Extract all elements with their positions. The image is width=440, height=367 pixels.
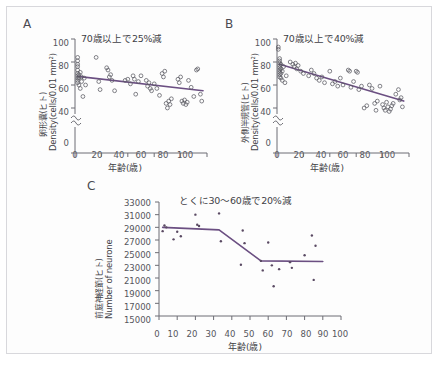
panel-c: C 前庭神経節(ヒト) Number of neurone とくに30〜60歳で… [65,179,395,351]
panel-c-xtick-6: 60 [260,329,276,339]
panel-c-xtick-0: 0 [150,329,164,339]
panel-c-ytick-1: 31000 [111,211,151,221]
panel-a-ytick-3: 40 [41,107,69,117]
panel-c-ylabel-jp: 前庭神経節(ヒト) [93,259,104,319]
panel-c-xtick-7: 70 [279,329,295,339]
panel-c-ytick-4: 25000 [111,250,151,260]
panel-c-xtick-2: 20 [184,329,200,339]
panel-c-plot [155,199,345,324]
panel-a-ytick-2: 60 [41,84,69,94]
panel-c-xtick-4: 40 [222,329,238,339]
panel-c-xtick-3: 30 [203,329,219,339]
panel-c-xlabel: 年齢(歳) [205,340,285,353]
panel-a-letter: A [23,17,31,31]
panel-b-plot [273,39,413,159]
panel-c-xtick-1: 10 [165,329,181,339]
panel-b-ytick-2: 60 [243,84,271,94]
panel-c-ytick-5: 23000 [111,263,151,273]
panel-a-ytick-4: 0 [41,138,69,148]
panel-b: B 外側半規管(ヒト) Density(cells/0.01 mm²) 70歳以… [219,15,417,175]
panel-b-letter: B [225,17,233,31]
panel-c-ytick-9: 15000 [111,315,151,325]
panel-a-ytick-0: 100 [41,38,69,48]
panel-b-ytick-3: 40 [243,107,271,117]
panel-c-ytick-3: 27000 [111,237,151,247]
panel-c-ytick-2: 29000 [111,224,151,234]
panel-b-ytick-1: 80 [243,61,271,71]
figure-frame: A 卵形嚢(ヒト) Density(cells/0.01 mm²) 70歳以上で… [6,6,432,354]
panel-a-ytick-1: 80 [41,61,69,71]
panel-c-xtick-9: 90 [315,329,331,339]
panel-c-ytick-0: 33000 [111,198,151,208]
panel-b-xlabel: 年齢(歳) [287,161,367,174]
panel-b-ytick-4: 0 [243,138,271,148]
panel-c-ytick-8: 17000 [111,302,151,312]
panel-b-ytick-0: 100 [243,38,271,48]
panel-c-ytick-6: 21000 [111,276,151,286]
panel-c-letter: C [87,179,95,193]
panel-c-xtick-8: 80 [298,329,314,339]
panel-a-xlabel: 年齢(歳) [85,161,165,174]
panel-a-plot [71,39,211,159]
panel-c-xtick-5: 50 [241,329,257,339]
panel-c-ytick-7: 19000 [111,289,151,299]
panel-c-xtick-10: 100 [330,329,350,339]
panel-a: A 卵形嚢(ヒト) Density(cells/0.01 mm²) 70歳以上で… [15,15,213,175]
